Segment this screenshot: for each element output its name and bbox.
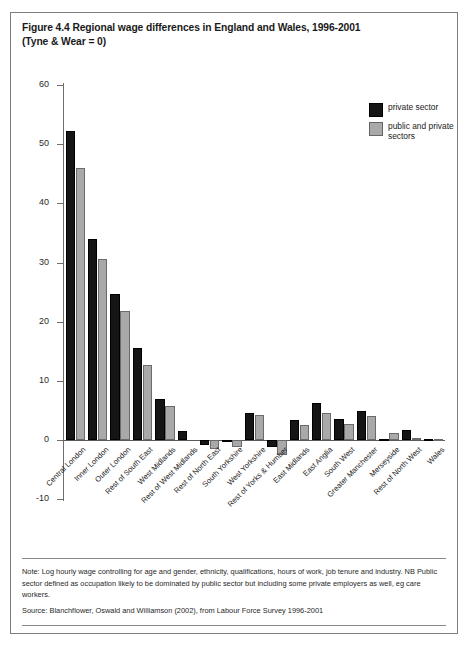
y-tick-mark	[57, 144, 63, 145]
bar	[120, 311, 129, 440]
bar-group	[178, 73, 197, 501]
y-tick-mark	[57, 85, 63, 86]
bar-group	[379, 73, 398, 501]
bar	[367, 416, 376, 440]
bar-group	[312, 73, 331, 501]
bar	[178, 431, 187, 440]
bar	[344, 424, 353, 440]
bar	[155, 399, 164, 440]
figure-source: Source: Blanchflower, Oswald and William…	[22, 605, 446, 616]
y-tick-0: 0	[53, 440, 63, 441]
bar	[402, 430, 411, 440]
bar	[165, 406, 174, 440]
bar	[98, 259, 107, 440]
y-tick-10: 10	[53, 381, 63, 382]
figure-title-line-1: Figure 4.4 Regional wage differences in …	[22, 21, 442, 35]
bar	[66, 131, 75, 440]
bar	[245, 413, 254, 440]
bar	[424, 439, 433, 441]
bar-group	[133, 73, 152, 501]
bar-group	[110, 73, 129, 501]
y-tick-label: 30	[39, 257, 49, 267]
figure-frame: Figure 4.4 Regional wage differences in …	[10, 12, 458, 634]
y-tick-20: 20	[53, 322, 63, 323]
y-tick-60: 60	[53, 85, 63, 86]
figure-title-line-2: (Tyne & Wear = 0)	[22, 35, 442, 49]
bar-group	[290, 73, 309, 501]
y-tick-mark	[57, 203, 63, 204]
bar	[76, 168, 85, 440]
figure-title: Figure 4.4 Regional wage differences in …	[22, 21, 442, 48]
bar-group	[334, 73, 353, 501]
bar	[88, 239, 97, 440]
y-tick-30: 30	[53, 263, 63, 264]
bar-series-container	[64, 73, 445, 501]
bar	[389, 433, 398, 440]
y-tick-label: 50	[39, 138, 49, 148]
bar	[357, 411, 366, 440]
y-tick-label: -10	[36, 493, 49, 503]
bar	[133, 348, 142, 440]
y-tick-40: 40	[53, 203, 63, 204]
bar	[290, 420, 299, 440]
chart-plot-area: -100102030405060	[53, 73, 445, 485]
bar	[312, 403, 321, 440]
bar	[434, 439, 443, 441]
bar	[222, 440, 231, 442]
bar	[322, 413, 331, 440]
bar	[300, 425, 309, 440]
note-divider	[22, 558, 446, 559]
y-tick-mark	[57, 440, 63, 441]
y-tick-50: 50	[53, 144, 63, 145]
bar	[143, 365, 152, 440]
x-axis-labels: Central LondonInner LondonOuter LondonRe…	[53, 445, 453, 555]
y-tick-mark	[57, 263, 63, 264]
figure-note: Note: Log hourly wage controlling for ag…	[22, 566, 446, 601]
x-axis-label: Wales	[425, 445, 446, 466]
y-tick-label: 10	[39, 375, 49, 385]
bar	[110, 294, 119, 440]
bar-group	[66, 73, 85, 501]
bar-group	[357, 73, 376, 501]
y-tick-mark	[57, 381, 63, 382]
bar	[334, 419, 343, 440]
y-tick-label: 0	[44, 434, 49, 444]
bar	[200, 440, 209, 445]
bar	[379, 439, 388, 441]
y-tick-label: 20	[39, 316, 49, 326]
bar	[412, 438, 421, 440]
bar	[255, 415, 264, 440]
bar-group	[88, 73, 107, 501]
bar-group	[245, 73, 264, 501]
y-tick-label: 60	[39, 79, 49, 89]
source-divider	[22, 625, 446, 626]
y-tick-mark	[57, 322, 63, 323]
bar-group	[402, 73, 421, 501]
bar-group	[222, 73, 241, 501]
figure-page: Figure 4.4 Regional wage differences in …	[0, 0, 468, 646]
bar-group	[200, 73, 219, 501]
bar-group	[155, 73, 174, 501]
bar-group	[424, 73, 443, 501]
y-tick-label: 40	[39, 197, 49, 207]
bar-group	[267, 73, 286, 501]
